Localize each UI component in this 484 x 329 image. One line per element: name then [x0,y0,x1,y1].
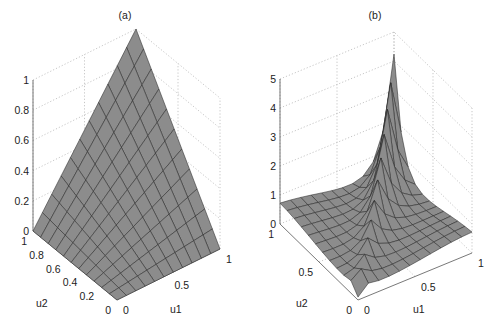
subplot-b-surface [280,54,472,297]
subplot-a: (a) 00.20.40.60.8100.5100.20.40.60.81 u2… [14,9,232,316]
svg-text:0.8: 0.8 [14,104,29,116]
svg-text:1: 1 [226,253,232,265]
subplot-b-title: (b) [369,9,382,21]
subplot-a-surface [33,29,220,300]
svg-text:0.4: 0.4 [63,276,78,288]
svg-text:0.6: 0.6 [46,263,61,275]
svg-text:0: 0 [346,304,352,316]
svg-text:0.6: 0.6 [14,134,29,146]
svg-text:0.8: 0.8 [29,249,44,261]
svg-text:4: 4 [270,102,276,114]
svg-text:0.5: 0.5 [175,279,190,291]
svg-text:0.2: 0.2 [14,195,29,207]
subplot-b: (b) 01234500.5100.51 u2 u1 [268,9,484,316]
svg-text:0.5: 0.5 [298,266,313,278]
svg-text:0: 0 [364,304,370,316]
svg-text:1: 1 [478,257,484,269]
svg-text:2: 2 [270,160,276,172]
subplot-b-ylabel: u2 [296,297,308,309]
subplot-a-xlabel: u1 [170,303,182,315]
svg-text:0.4: 0.4 [14,165,29,177]
svg-text:0: 0 [123,304,129,316]
svg-text:1: 1 [270,189,276,201]
svg-text:1: 1 [268,228,274,240]
svg-text:0.2: 0.2 [80,290,95,302]
svg-text:1: 1 [23,74,29,86]
subplot-b-xlabel: u1 [413,303,425,315]
subplot-a-title: (a) [119,9,132,21]
subplot-a-ylabel: u2 [36,297,48,309]
svg-text:0: 0 [105,304,111,316]
svg-text:1: 1 [21,235,27,247]
figure-canvas: (a) 00.20.40.60.8100.5100.20.40.60.81 u2… [0,0,484,329]
svg-text:0.5: 0.5 [421,281,436,293]
svg-text:5: 5 [270,73,276,85]
svg-text:3: 3 [270,131,276,143]
